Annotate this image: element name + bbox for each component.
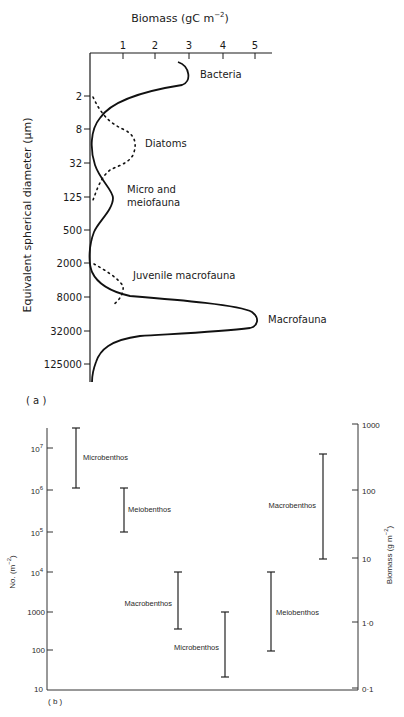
x-tick-label: 4 xyxy=(220,40,226,51)
panel-a-annotations: Bacteria Diatoms Micro and meiofauna Juv… xyxy=(127,69,327,325)
annotation-juvenile-macrofauna: Juvenile macrofauna xyxy=(132,270,235,281)
label-microbenthos-biomass: Microbenthos xyxy=(174,643,219,652)
range-bar-macrobenthos-biomass xyxy=(319,454,327,559)
panel-a-y-ticks: 2 8 32 125 500 2000 8000 32000 125000 xyxy=(44,91,90,370)
panel-b-left-axis-title: No. (m−2) xyxy=(6,555,17,589)
panel-a: Biomass (gC m−2) 1 2 3 4 5 xyxy=(21,11,327,406)
range-bar-microbenthos-numbers xyxy=(72,428,80,488)
panel-a-label: ( a ) xyxy=(26,395,46,406)
left-tick-label: 105 xyxy=(31,527,44,538)
label-microbenthos-numbers: Microbenthos xyxy=(83,453,128,462)
y-tick-label: 2000 xyxy=(57,258,82,269)
range-bar-macrobenthos-numbers xyxy=(174,572,182,629)
x-tick-label: 3 xyxy=(186,40,192,51)
left-tick-label: 100 xyxy=(32,646,46,655)
panel-a-x-axis-title: Biomass (gC m−2) xyxy=(131,11,229,25)
left-tick-label: 104 xyxy=(31,567,44,578)
total-biomass-curve xyxy=(90,62,258,382)
panel-b-right-ticks: 1000 100 10 1·0 0·1 xyxy=(352,421,380,694)
left-tick-label: 107 xyxy=(31,443,44,454)
right-tick-label: 10 xyxy=(362,555,371,564)
label-meiobenthos-numbers: Meiobenthos xyxy=(128,505,171,514)
y-tick-label: 125 xyxy=(63,192,82,203)
panel-b: 107 106 105 104 1000 100 10 No. (m−2) 10… xyxy=(6,421,394,706)
right-tick-label: 1000 xyxy=(362,421,380,430)
x-tick-label: 2 xyxy=(152,40,158,51)
x-tick-label: 5 xyxy=(252,40,258,51)
label-macrobenthos-biomass: Macrobenthos xyxy=(268,501,316,510)
annotation-bacteria: Bacteria xyxy=(200,69,242,80)
panel-a-x-ticks: 1 2 3 4 5 xyxy=(120,40,258,59)
label-macrobenthos-numbers: Macrobenthos xyxy=(124,599,172,608)
figure: Biomass (gC m−2) 1 2 3 4 5 xyxy=(0,0,404,717)
range-bar-meiobenthos-numbers xyxy=(120,488,128,532)
y-tick-label: 32 xyxy=(69,158,82,169)
left-tick-label: 10 xyxy=(34,685,43,694)
range-bar-microbenthos-biomass xyxy=(221,612,229,677)
annotation-micro-line1: Micro and xyxy=(127,184,176,195)
panel-b-label: ( b ) xyxy=(48,697,63,706)
annotation-micro-line2: meiofauna xyxy=(127,197,180,208)
panel-b-bar-labels: Microbenthos Meiobenthos Macrobenthos Mi… xyxy=(83,453,319,652)
y-tick-label: 2 xyxy=(76,91,82,102)
juvenile-macrofauna-curve xyxy=(94,264,123,304)
right-tick-label: 100 xyxy=(362,487,376,496)
right-tick-label: 0·1 xyxy=(362,685,374,694)
annotation-diatoms: Diatoms xyxy=(145,138,187,149)
y-tick-label: 125000 xyxy=(44,359,82,370)
y-tick-label: 8000 xyxy=(57,292,82,303)
right-tick-label: 1·0 xyxy=(362,619,374,628)
panel-a-y-axis-title: Equivalent spherical diameter (μm) xyxy=(21,118,34,313)
y-tick-label: 32000 xyxy=(50,326,82,337)
panel-b-left-ticks: 107 106 105 104 1000 100 10 xyxy=(27,443,53,694)
panel-b-range-bars xyxy=(72,428,327,677)
range-bar-meiobenthos-biomass xyxy=(267,572,275,651)
x-tick-label: 1 xyxy=(120,40,126,51)
left-tick-label: 106 xyxy=(31,485,44,496)
label-meiobenthos-biomass: Meiobenthos xyxy=(276,608,319,617)
left-tick-label: 1000 xyxy=(27,608,45,617)
y-tick-label: 500 xyxy=(63,225,82,236)
y-tick-label: 8 xyxy=(76,124,82,135)
panel-b-right-axis-title: Biomass (g m−2) xyxy=(383,525,394,584)
annotation-macrofauna: Macrofauna xyxy=(268,314,327,325)
